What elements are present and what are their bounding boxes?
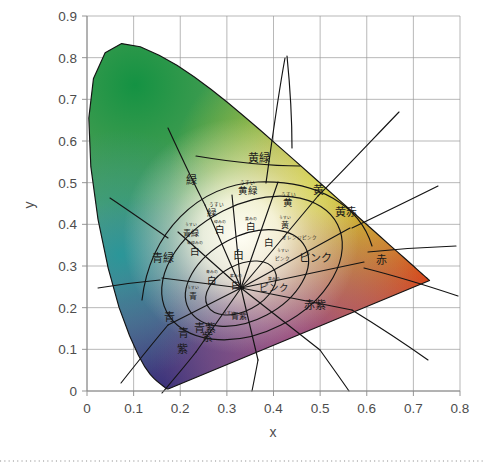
region-label-lbg-pre: うすい: [185, 222, 197, 227]
x-tick-0.8: 0.8: [451, 401, 470, 416]
y-tick-0.7: 0.7: [58, 92, 77, 107]
region-label-pink2-pre: 黄みの: [268, 276, 280, 281]
region-label-yellow-green: 黄緑: [248, 151, 270, 165]
region-label-white-left-pre: 緑みの: [214, 219, 226, 224]
region-label-ly-pre: うすい: [281, 191, 296, 198]
region-label-white-low: 白: [231, 280, 241, 291]
region-label-white-left: 白: [215, 224, 225, 235]
x-tick-0.7: 0.7: [404, 401, 423, 416]
chromaticity-chart: 00.10.20.30.40.50.60.70.8 00.10.20.30.40…: [0, 0, 484, 468]
region-label-white-far-left-pre: 青緑みの: [187, 240, 203, 245]
region-label-blue: 青: [164, 311, 175, 324]
x-tick-0.4: 0.4: [264, 401, 283, 416]
y-axis-tick-labels: 00.10.20.30.40.50.60.70.80.9: [58, 9, 77, 399]
x-tick-0.2: 0.2: [171, 401, 190, 416]
region-label-blue-lower: 青: [178, 327, 189, 340]
region-label-yellow: 黄: [313, 183, 324, 197]
region-label-light-blue-green: 青緑: [183, 228, 199, 238]
region-label-white-right: 白: [264, 237, 274, 248]
region-label-pink2: ピンク: [259, 282, 289, 293]
region-label-purple: 紫: [177, 343, 188, 356]
region-label-light-yellow-green: 黄緑: [238, 185, 258, 196]
x-tick-0: 0: [83, 401, 91, 416]
region-label-lb-pre: うすい: [187, 285, 199, 290]
x-tick-0.3: 0.3: [217, 401, 236, 416]
x-tick-0.1: 0.1: [124, 401, 143, 416]
region-label-white-low-pre: 紫みの: [230, 273, 242, 278]
region-label-lp-pre: うすい: [277, 248, 289, 253]
region-label-white-upper-pre: 黄みの: [245, 216, 257, 221]
region-label-lyg-pre: うすい: [240, 179, 255, 186]
region-label-white-upper: 白: [246, 221, 256, 232]
y-tick-0: 0: [69, 384, 77, 399]
region-label-lbp-pre: うすい: [223, 310, 235, 315]
region-label-ly2-pre: うすい: [279, 215, 291, 220]
y-tick-0.9: 0.9: [58, 9, 77, 24]
region-label-light-green-pre: うすい: [209, 201, 224, 208]
region-label-pink: ピンク: [299, 252, 332, 265]
region-label-light-blue: 青: [189, 291, 197, 301]
region-label-white-center: 白: [233, 248, 244, 262]
region-label-white-far-left: 白: [190, 246, 200, 257]
region-label-purple-mid: 紫: [202, 331, 213, 344]
region-label-white-low-left-pre: 青みの: [206, 269, 218, 274]
x-axis-title: x: [270, 424, 277, 440]
region-label-light-yellow2: 黄: [281, 220, 289, 230]
y-tick-0.4: 0.4: [58, 217, 77, 232]
y-tick-0.1: 0.1: [58, 342, 77, 357]
y-tick-0.6: 0.6: [58, 134, 77, 149]
region-label-light-yellow: 黄: [283, 197, 293, 208]
y-tick-0.3: 0.3: [58, 259, 77, 274]
region-label-green: 緑: [186, 173, 197, 187]
x-tick-0.5: 0.5: [311, 401, 330, 416]
region-label-light-green: 緑: [207, 207, 217, 218]
y-tick-0.8: 0.8: [58, 51, 77, 66]
y-axis-title: y: [21, 202, 37, 209]
x-tick-0.6: 0.6: [357, 401, 376, 416]
gamut-color-fill: [60, 0, 484, 420]
x-axis-tick-labels: 00.10.20.30.40.50.60.70.8: [83, 401, 469, 416]
region-label-red-purple: 赤紫: [304, 299, 326, 312]
region-label-red: 赤: [376, 254, 387, 267]
region-label-white-low-left: 白: [207, 275, 217, 286]
y-tick-0.5: 0.5: [58, 176, 77, 191]
y-tick-0.2: 0.2: [58, 301, 77, 316]
region-label-yellow-red: 黄赤: [335, 205, 357, 219]
region-label-blue-green: 青緑: [152, 251, 174, 265]
chromaticity-diagram-figure: 00.10.20.30.40.50.60.70.8 00.10.20.30.40…: [0, 0, 484, 468]
